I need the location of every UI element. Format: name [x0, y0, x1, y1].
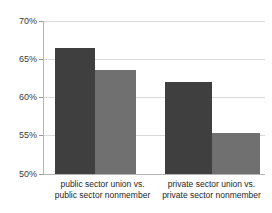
y-tick-mark-55 — [39, 135, 43, 136]
y-tick-mark-50 — [39, 174, 43, 175]
plot-area — [43, 21, 265, 174]
gridline-70 — [43, 21, 265, 22]
y-tick-mark-65 — [39, 59, 43, 60]
x-category-label-private-sector-line1: private sector union vs. — [168, 179, 255, 189]
x-axis-line — [43, 174, 265, 175]
bar-public-sector-nonmember — [95, 70, 136, 174]
y-tick-label-50: 50% — [0, 170, 37, 179]
y-tick-label-70: 70% — [0, 17, 37, 26]
x-category-label-public-sector-line1: public sector union vs. — [60, 179, 144, 189]
bar-public-sector-union — [55, 48, 95, 174]
bar-chart-figure: 70% 65% 60% 55% 50% public sector union … — [0, 0, 272, 213]
x-category-label-private-sector: private sector union vs. private sector … — [134, 179, 272, 201]
x-category-label-private-sector-line2: private sector nonmember — [134, 190, 272, 201]
bar-private-sector-nonmember — [212, 133, 260, 174]
y-tick-mark-60 — [39, 97, 43, 98]
y-tick-mark-70 — [39, 21, 43, 22]
y-axis-line — [43, 21, 44, 175]
y-tick-label-55: 55% — [0, 131, 37, 140]
y-tick-label-60: 60% — [0, 93, 37, 102]
y-tick-label-65: 65% — [0, 55, 37, 64]
bar-private-sector-union — [165, 82, 212, 174]
